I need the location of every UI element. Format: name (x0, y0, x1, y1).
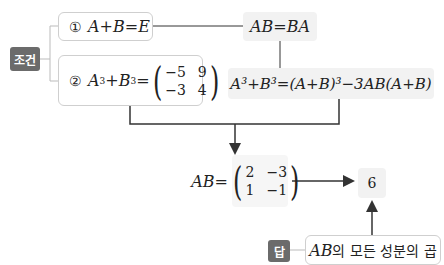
right-paren: ) (290, 161, 299, 201)
condition-2-a: A (88, 71, 100, 90)
matrix-cell: −1 (267, 182, 288, 198)
final-value-box: 6 (358, 168, 386, 198)
answer-text: 의 모든 성분의 곱 (332, 240, 436, 260)
condition-2-number: ② (69, 73, 82, 89)
matrix-cell: −3 (165, 82, 186, 98)
matrix-cell: −3 (267, 164, 288, 180)
plus-sign: + (105, 71, 118, 90)
right-paren: ) (210, 61, 219, 101)
condition-badge: 조건 (10, 47, 40, 71)
ab-result-matrix: ( 2 −3 1 −1 ) (230, 161, 303, 201)
matrix-cell: −5 (165, 64, 186, 80)
matrix-cell: 9 (198, 64, 207, 80)
identity-box: A³+B³=(A+B)³−3AB(A+B) (228, 68, 434, 99)
matrix-cell: 1 (246, 182, 255, 198)
matrix-cell: 4 (198, 82, 207, 98)
condition-1-number: ① (69, 19, 82, 35)
condition-2-box: ② A3 + B3 = ( −5 9 −3 4 ) (58, 55, 203, 106)
condition-1-box: ① A+B=E (58, 12, 153, 41)
condition-1-expr: A+B=E (88, 17, 150, 36)
ab-result-box: AB= ( 2 −3 1 −1 ) (232, 155, 288, 207)
commute-box: AB=BA (243, 12, 317, 41)
left-paren: ( (233, 161, 242, 201)
condition-2-matrix: ( −5 9 −3 4 ) (150, 61, 223, 101)
answer-math: AB (309, 241, 332, 260)
ab-result-lhs: AB= (191, 172, 228, 191)
answer-badge: 답 (268, 240, 290, 262)
left-paren: ( (153, 61, 162, 101)
condition-2-b: B (119, 71, 131, 90)
answer-box: AB 의 모든 성분의 곱 (305, 235, 441, 265)
matrix-cell: 2 (246, 164, 255, 180)
equals-sign: = (136, 71, 149, 90)
